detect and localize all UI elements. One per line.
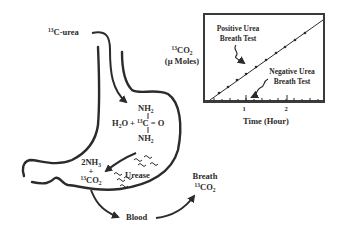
negative-series-label-1: Negative Urea xyxy=(262,68,322,76)
positive-series-label-1: Positive Urea xyxy=(210,25,266,33)
chart-ylabel-line2: (μ Moles) xyxy=(160,57,204,66)
blood-label: Blood xyxy=(126,213,147,222)
urease-label: Urease xyxy=(125,171,150,180)
urea-text: C-urea xyxy=(54,27,79,37)
subscript: 2 xyxy=(151,138,154,144)
carbonyl-text: C = O xyxy=(143,118,165,128)
urea-breath-test-diagram: 13C-urea NH2 H2O + 13C = O NH2 2NH3 + 13… xyxy=(0,0,341,233)
co2-to-blood-arrow xyxy=(91,190,118,217)
x-tick-2: 2 xyxy=(281,106,291,113)
subscript: 2 xyxy=(213,187,216,193)
co-text: CO xyxy=(177,45,190,55)
reaction-middle: H2O + 13C = O xyxy=(112,119,164,130)
co-text: CO xyxy=(200,182,213,192)
x-tick-1: 1 xyxy=(239,106,249,113)
reaction-top-nh2: NH2 xyxy=(138,104,154,115)
chart-xlabel: Time (Hour) xyxy=(234,117,298,126)
urea-entry-arrow xyxy=(92,32,126,102)
nh-text: NH xyxy=(138,133,151,143)
negative-series-label-2: Breath Test xyxy=(262,78,322,86)
subscript: 2 xyxy=(151,108,154,114)
positive-series-label-2: Breath Test xyxy=(210,35,266,43)
breath-label: Breath xyxy=(188,172,222,181)
subscript: 2 xyxy=(99,180,102,186)
reaction-bottom-nh2: NH2 xyxy=(138,134,154,145)
nh-text: NH xyxy=(138,103,151,113)
chart-ylabel-line1: 13CO2 xyxy=(162,46,202,57)
urea-input-label: 13C-urea xyxy=(48,28,79,37)
products-co2: 13CO2 xyxy=(74,176,108,187)
co-text: CO xyxy=(86,175,99,185)
o-plus-text: O + xyxy=(121,118,137,128)
reaction-to-products-arrow xyxy=(106,153,136,171)
h-text: H xyxy=(112,118,119,128)
blood-to-breath-arrow xyxy=(156,196,194,218)
breath-co2-label: 13CO2 xyxy=(190,183,220,194)
